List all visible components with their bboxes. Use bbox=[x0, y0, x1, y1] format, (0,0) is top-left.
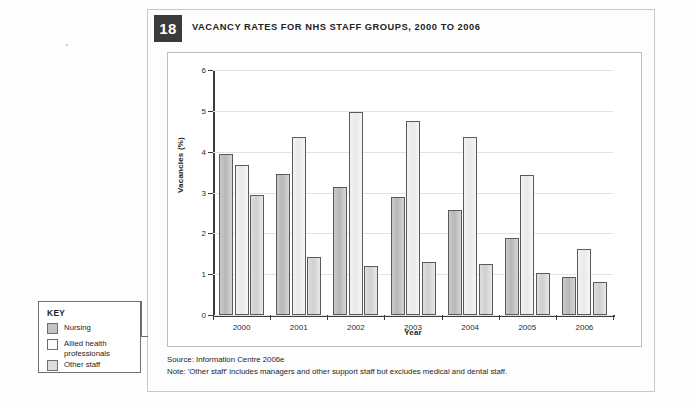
x-tick-mark bbox=[270, 315, 271, 320]
bar-2001-other-staff bbox=[307, 257, 321, 315]
legend-swatch-icon bbox=[47, 360, 58, 371]
note-text: Note: 'Other staff' includes managers an… bbox=[167, 366, 642, 378]
bar-2006-other-staff bbox=[593, 282, 607, 315]
bar-2005-nursing bbox=[505, 238, 519, 315]
legend-item-label: Other staff bbox=[64, 360, 100, 370]
x-tick-mark bbox=[613, 315, 614, 320]
x-tick-mark bbox=[499, 315, 500, 320]
page-speck bbox=[66, 44, 68, 46]
bar-2004-allied-health-professionals bbox=[463, 137, 477, 315]
legend-item-allied-health-professionals[interactable]: Allied health professionals bbox=[47, 339, 126, 359]
bar-2000-allied-health-professionals bbox=[235, 165, 249, 315]
bar-2004-nursing bbox=[448, 210, 462, 315]
y-tick-mark bbox=[208, 152, 213, 153]
x-tick-mark bbox=[213, 315, 214, 320]
legend-swatch-icon bbox=[47, 339, 58, 350]
y-tick-mark bbox=[208, 233, 213, 234]
x-tick-mark bbox=[384, 315, 385, 320]
x-axis-title: Year bbox=[213, 328, 613, 337]
bar-2001-allied-health-professionals bbox=[292, 137, 306, 315]
y-tick-mark bbox=[208, 193, 213, 194]
y-tick-mark bbox=[208, 70, 213, 71]
y-gridline bbox=[213, 315, 613, 316]
bar-2005-other-staff bbox=[536, 273, 550, 315]
legend-key-box: KEY NursingAllied health professionalsOt… bbox=[38, 301, 141, 373]
legend-swatch-icon bbox=[47, 323, 58, 334]
plot-area: 01234562000200120022003200420052006 bbox=[213, 70, 613, 315]
x-tick-mark bbox=[442, 315, 443, 320]
bar-2002-allied-health-professionals bbox=[349, 112, 363, 315]
bar-2002-other-staff bbox=[364, 266, 378, 315]
y-gridline bbox=[213, 70, 613, 71]
bar-2003-nursing bbox=[391, 197, 405, 315]
y-tick-label: 3 bbox=[202, 188, 206, 197]
bar-2002-nursing bbox=[333, 187, 347, 315]
y-axis-title: Vacancies (%) bbox=[176, 137, 185, 193]
x-tick-mark bbox=[556, 315, 557, 320]
x-tick-mark bbox=[327, 315, 328, 320]
key-connector-horizontal bbox=[141, 336, 148, 337]
source-text: Source: Information Centre 2006e bbox=[167, 354, 642, 366]
figure-number-badge: 18 bbox=[154, 15, 182, 42]
legend-item-label: Nursing bbox=[64, 323, 91, 333]
figure-header: 18 VACANCY RATES FOR NHS STAFF GROUPS, 2… bbox=[148, 10, 654, 48]
bar-2003-other-staff bbox=[422, 262, 436, 315]
y-tick-label: 4 bbox=[202, 147, 206, 156]
key-connector-vertical bbox=[141, 301, 142, 337]
legend-heading: KEY bbox=[47, 308, 65, 318]
y-tick-mark bbox=[208, 274, 213, 275]
bar-2000-nursing bbox=[219, 154, 233, 315]
figure-root: 18 VACANCY RATES FOR NHS STAFF GROUPS, 2… bbox=[0, 0, 695, 410]
y-tick-label: 2 bbox=[202, 229, 206, 238]
bar-2004-other-staff bbox=[479, 264, 493, 315]
figure-footer: Source: Information Centre 2006e Note: '… bbox=[167, 354, 642, 377]
y-tick-label: 1 bbox=[202, 270, 206, 279]
y-tick-label: 6 bbox=[202, 66, 206, 75]
legend-item-nursing[interactable]: Nursing bbox=[47, 323, 91, 334]
y-tick-label: 5 bbox=[202, 106, 206, 115]
legend-item-other-staff[interactable]: Other staff bbox=[47, 360, 100, 371]
figure-title: VACANCY RATES FOR NHS STAFF GROUPS, 2000… bbox=[192, 22, 481, 32]
y-tick-mark bbox=[208, 111, 213, 112]
y-gridline bbox=[213, 111, 613, 112]
bar-2006-allied-health-professionals bbox=[577, 249, 591, 315]
y-tick-label: 0 bbox=[202, 311, 206, 320]
bar-2003-allied-health-professionals bbox=[406, 121, 420, 315]
bar-2001-nursing bbox=[276, 174, 290, 315]
legend-item-label: Allied health professionals bbox=[64, 339, 126, 359]
plot-frame: Vacancies (%) 01234562000200120022003200… bbox=[167, 52, 642, 347]
bar-2000-other-staff bbox=[250, 195, 264, 315]
bar-2005-allied-health-professionals bbox=[520, 175, 534, 315]
figure-panel: 18 VACANCY RATES FOR NHS STAFF GROUPS, 2… bbox=[147, 9, 655, 392]
bar-2006-nursing bbox=[562, 277, 576, 315]
